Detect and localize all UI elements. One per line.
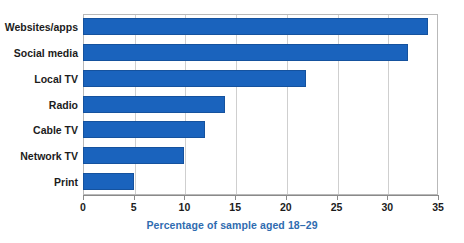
x-axis-line xyxy=(83,195,438,196)
x-tick-label: 20 xyxy=(280,201,292,213)
bar xyxy=(83,18,428,35)
x-tick-label: 30 xyxy=(381,201,393,213)
x-tick-label: 0 xyxy=(80,201,86,213)
bar xyxy=(83,44,408,61)
bar-row xyxy=(83,117,438,143)
x-tick-label: 35 xyxy=(432,201,444,213)
x-tick-35 xyxy=(438,195,439,200)
x-tick-20 xyxy=(286,195,287,200)
bar-row xyxy=(83,92,438,118)
category-axis-labels: Websites/appsSocial mediaLocal TVRadioCa… xyxy=(0,14,78,195)
bar-row xyxy=(83,169,438,195)
x-tick-label: 25 xyxy=(331,201,343,213)
x-tick-15 xyxy=(235,195,236,200)
bar-row xyxy=(83,40,438,66)
bar xyxy=(83,121,205,138)
x-axis-title: Percentage of sample aged 18–29 xyxy=(0,219,464,231)
bar-row xyxy=(83,14,438,40)
x-tick-30 xyxy=(387,195,388,200)
bar xyxy=(83,147,184,164)
bar-chart-figure: Websites/appsSocial mediaLocal TVRadioCa… xyxy=(0,0,464,243)
bar-row xyxy=(83,66,438,92)
category-label: Network TV xyxy=(0,150,78,162)
bar-row xyxy=(83,143,438,169)
x-tick-label: 15 xyxy=(229,201,241,213)
category-label: Websites/apps xyxy=(0,21,78,33)
x-tick-label: 10 xyxy=(179,201,191,213)
bar xyxy=(83,173,134,190)
x-tick-5 xyxy=(134,195,135,200)
bar xyxy=(83,96,225,113)
category-label: Local TV xyxy=(0,73,78,85)
bars-layer xyxy=(83,14,438,195)
category-label: Print xyxy=(0,176,78,188)
x-tick-label: 5 xyxy=(131,201,137,213)
bar xyxy=(83,70,306,87)
category-label: Radio xyxy=(0,99,78,111)
category-label: Cable TV xyxy=(0,124,78,136)
x-tick-10 xyxy=(184,195,185,200)
category-label: Social media xyxy=(0,47,78,59)
x-tick-25 xyxy=(337,195,338,200)
x-tick-0 xyxy=(83,195,84,200)
